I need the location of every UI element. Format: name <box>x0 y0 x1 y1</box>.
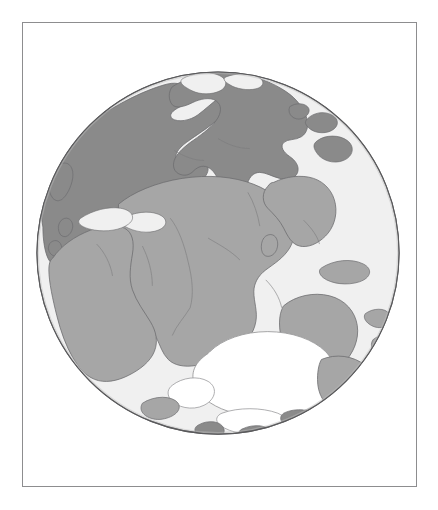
globe-container <box>23 23 416 486</box>
land-gondwana-se-margin <box>318 356 377 411</box>
page-root <box>0 0 438 510</box>
figure-frame <box>22 22 417 487</box>
land-sub-antarctic-sliver-a <box>195 422 224 440</box>
globe-map <box>23 23 416 486</box>
